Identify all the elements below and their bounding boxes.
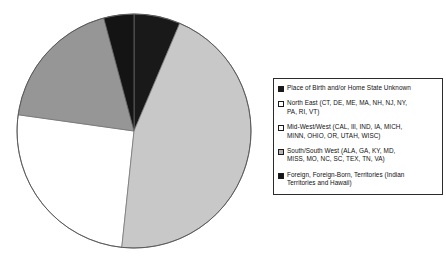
- pie-slice[interactable]: [17, 115, 134, 248]
- swatch-place-of-birth-unknown: [278, 86, 284, 92]
- legend-item-label: Mid-West/West (CAL, Ill, IND, IA, MICH, …: [287, 123, 402, 140]
- swatch-south-south-west: [278, 149, 284, 155]
- legend-item-label: Place of Birth and/or Home State Unknown: [287, 84, 411, 92]
- chart-canvas: Place of Birth and/or Home State Unknown…: [0, 0, 446, 270]
- swatch-north-east: [278, 101, 284, 107]
- pie-chart-svg: [0, 0, 268, 270]
- swatch-mid-west-west: [278, 125, 284, 131]
- pie-slice-group: [17, 14, 251, 248]
- pie-chart: [0, 0, 268, 270]
- swatch-foreign-born: [278, 173, 284, 179]
- legend-item-label: South/South West (ALA, GA, KY, MD, MISS,…: [287, 147, 395, 164]
- legend-item[interactable]: Foreign, Foreign-Born, Territories (Indi…: [278, 171, 438, 188]
- legend-item[interactable]: South/South West (ALA, GA, KY, MD, MISS,…: [278, 147, 438, 164]
- legend-item[interactable]: Mid-West/West (CAL, Ill, IND, IA, MICH, …: [278, 123, 438, 140]
- legend-item[interactable]: Place of Birth and/or Home State Unknown: [278, 84, 438, 92]
- chart-legend: Place of Birth and/or Home State Unknown…: [273, 78, 443, 195]
- legend-item-label: Foreign, Foreign-Born, Territories (Indi…: [287, 171, 404, 188]
- legend-item-label: North East (CT, DE, ME, MA, NH, NJ, NY, …: [287, 99, 407, 116]
- legend-item[interactable]: North East (CT, DE, ME, MA, NH, NJ, NY, …: [278, 99, 438, 116]
